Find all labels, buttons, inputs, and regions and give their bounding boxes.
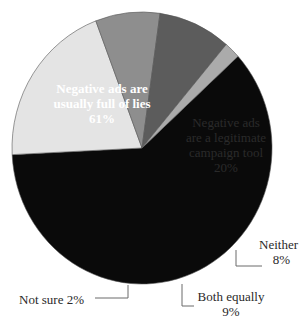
leader-line-notsure xyxy=(95,285,128,298)
label-percent: 9% xyxy=(190,304,272,319)
label-line: Neither xyxy=(252,237,298,252)
label-line: campaign tool xyxy=(178,145,274,160)
label-line: usually full of lies xyxy=(40,96,164,111)
slice-label-usually-full-of-lies: Negative ads are usually full of lies 61… xyxy=(40,81,164,126)
slice-label-legitimate-tool: Negative ads are a legitimate campaign t… xyxy=(178,115,274,175)
label-line: Negative ads xyxy=(178,115,274,130)
label-percent: 20% xyxy=(178,160,274,175)
slice-label-both-equally: Both equally 9% xyxy=(190,289,272,319)
label-line: Both equally xyxy=(190,289,272,304)
label-percent: 8% xyxy=(252,252,298,267)
label-line: Negative ads are xyxy=(40,81,164,96)
slice-label-not-sure: Not sure 2% xyxy=(19,292,95,307)
slice-label-neither: Neither 8% xyxy=(252,237,298,267)
label-percent: 61% xyxy=(40,111,164,126)
label-line: are a legitimate xyxy=(178,130,274,145)
label-line: Not sure 2% xyxy=(19,292,95,307)
